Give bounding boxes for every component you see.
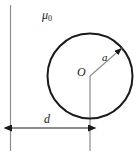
physics-figure: μ0 O a d [0, 0, 138, 159]
center-point-label: O [77, 66, 86, 78]
distance-label: d [44, 113, 50, 125]
figure-canvas [0, 0, 138, 159]
permeability-subscript: 0 [48, 14, 52, 23]
permeability-label: μ0 [42, 9, 52, 21]
radius-label: a [102, 52, 108, 63]
